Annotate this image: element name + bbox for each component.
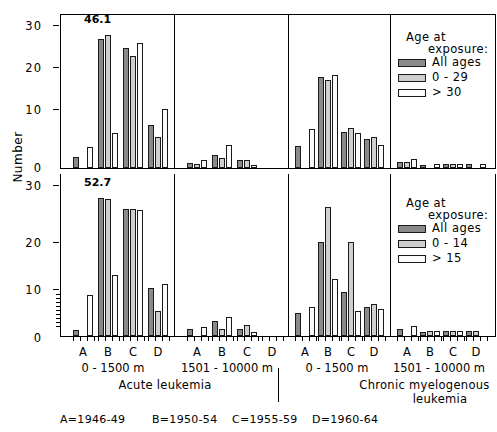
x-tick [466,337,467,341]
x-tick [316,337,317,341]
x-distance-label-2: 0 - 1500 m [285,361,389,375]
x-tick [325,337,326,341]
x-tick [378,337,379,341]
x-tick [420,337,421,341]
x-tick [155,337,156,341]
x-tick [464,337,465,341]
x-tick [487,337,488,341]
x-tick [362,337,363,341]
x-label-d: D [265,345,279,359]
period-key-b: B=1950-54 [152,413,217,426]
x-distance-label-0: 0 - 1500 m [57,361,169,375]
x-tick [144,337,145,341]
x-label-b: B [215,345,229,359]
x-tick [187,337,188,341]
x-tick [364,337,365,341]
period-key-a: A=1946-49 [60,413,125,426]
x-tick [194,337,195,341]
x-tick [258,337,259,341]
x-tick [411,337,412,341]
x-label-b: B [321,345,335,359]
x-label-c: C [446,345,460,359]
x-tick [418,337,419,341]
chart-figure: Number 30 20 10 0 30 20 10 0 46.1 52.7 [0,0,497,432]
x-label-d: D [469,345,483,359]
x-tick [450,337,451,341]
x-tick [208,337,209,341]
x-tick [318,337,319,341]
x-tick [169,337,170,341]
x-tick [441,337,442,341]
x-axis-labels: ABCD0 - 1500 mABCD1501 - 10000 mABCD0 - … [0,0,497,432]
x-label-b: B [101,345,115,359]
x-tick [355,337,356,341]
x-tick [212,337,213,341]
group-label-chronic-line1: Chronic myelogenous [352,378,497,392]
x-tick [137,337,138,341]
x-tick [244,337,245,341]
group-label-acute: Acute leukemia [95,378,235,392]
x-tick [269,337,270,341]
x-tick [80,337,81,341]
x-tick [443,337,444,341]
x-label-b: B [423,345,437,359]
x-tick [434,337,435,341]
x-tick [119,337,120,341]
x-tick [276,337,277,341]
x-tick [201,337,202,341]
x-distance-label-1: 1501 - 10000 m [171,361,283,375]
x-tick [397,337,398,341]
group-label-separator [278,368,279,402]
x-tick [457,337,458,341]
x-tick [123,337,124,341]
x-tick [237,337,238,341]
x-tick [404,337,405,341]
period-key-c: C=1955-59 [232,413,298,426]
x-label-a: A [400,345,414,359]
period-key-d: D=1960-64 [312,413,378,426]
x-tick [112,337,113,341]
x-tick [98,337,99,341]
x-label-d: D [367,345,381,359]
x-tick [162,337,163,341]
x-tick [309,337,310,341]
x-label-c: C [126,345,140,359]
x-tick [251,337,252,341]
x-tick [105,337,106,341]
x-tick [295,337,296,341]
x-label-d: D [151,345,165,359]
x-tick [427,337,428,341]
x-tick [87,337,88,341]
x-label-a: A [76,345,90,359]
x-tick [348,337,349,341]
group-label-chronic-line2: leukemia [390,392,490,406]
x-distance-label-3: 1501 - 10000 m [387,361,491,375]
x-tick [130,337,131,341]
x-tick [480,337,481,341]
x-tick [341,337,342,341]
x-tick [94,337,95,341]
x-tick [371,337,372,341]
x-tick [262,337,263,341]
x-tick [473,337,474,341]
x-tick [148,337,149,341]
x-tick [219,337,220,341]
x-tick [283,337,284,341]
x-tick [302,337,303,341]
x-label-c: C [344,345,358,359]
x-tick [385,337,386,341]
x-tick [339,337,340,341]
x-tick [73,337,74,341]
x-tick [332,337,333,341]
x-label-c: C [240,345,254,359]
x-tick [233,337,234,341]
x-tick [226,337,227,341]
x-label-a: A [298,345,312,359]
x-label-a: A [190,345,204,359]
